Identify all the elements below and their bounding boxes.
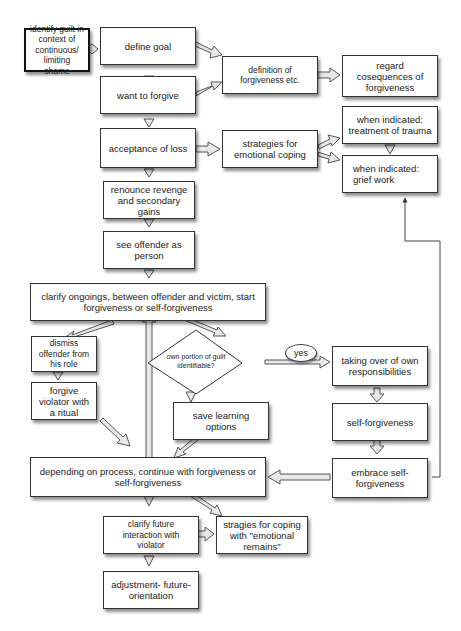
node-definition-of-forgiveness: definition of forgiveness etc. — [222, 56, 318, 94]
decision-own-portion-guilt: own portion of guilt identifiable? — [164, 352, 228, 370]
node-clarify-future-interaction: clarify future interaction with violator — [103, 516, 199, 554]
node-taking-over-responsibilities: taking over of own responsibilities — [332, 346, 428, 386]
node-treatment-of-trauma: when indicated: treatment of trauma — [342, 106, 438, 144]
node-acceptance-of-loss: acceptance of loss — [100, 128, 196, 168]
node-save-learning-options: save learning options — [173, 402, 269, 440]
node-see-offender: see offender as person — [103, 231, 195, 269]
node-define-goal: define goal — [100, 27, 196, 65]
node-dismiss-offender: dismiss offender from his role — [31, 336, 97, 372]
node-renounce-revenge: renounce revenge and secondary gains — [103, 181, 195, 219]
node-strategies-emotional-coping: strategies for emotional coping — [222, 130, 318, 168]
node-grief-work: when indicated: grief work — [342, 155, 438, 193]
node-identify-guilt: identify guilt in context of continuous/… — [24, 28, 90, 72]
node-embrace-self-forgiveness: embrace self-forgiveness — [332, 458, 428, 498]
node-self-forgiveness: self-forgiveness — [332, 403, 428, 441]
node-adjustment-future-orientation: adjustment- future-orientation — [103, 571, 199, 609]
node-want-to-forgive: want to forgive — [100, 76, 196, 114]
node-strategies-emotional-remains: stragies for coping with "emotional rema… — [216, 516, 308, 554]
yes-bubble: yes — [285, 344, 317, 362]
node-forgive-violator: forgive violator with a ritual — [31, 382, 97, 420]
node-clarify-ongoings: clarify ongoings, between offender and v… — [30, 283, 266, 321]
node-regard-consequences: regard cosequences of forgiveness — [342, 55, 438, 97]
node-depending-on-process: depending on process, continue with forg… — [30, 457, 266, 497]
